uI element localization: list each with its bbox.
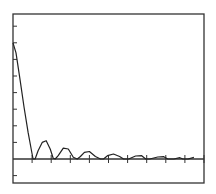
data-curve xyxy=(13,43,194,159)
sinc-magnitude-chart xyxy=(0,0,216,194)
